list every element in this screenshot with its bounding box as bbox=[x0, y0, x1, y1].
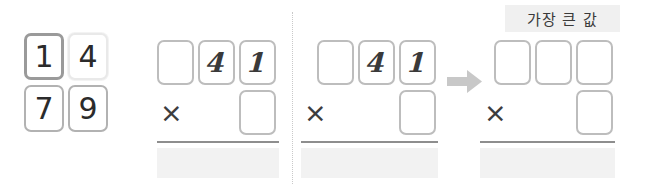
step-two-top-box-1[interactable]: 4 bbox=[358, 40, 395, 85]
step-two-top-box-2[interactable]: 1 bbox=[399, 40, 436, 85]
step-two-multiply-sign: × bbox=[304, 99, 327, 126]
step-one-top-value-2: 1 bbox=[247, 49, 268, 76]
step-one-top-box-0[interactable] bbox=[157, 40, 194, 85]
number-card-7[interactable]: 7 bbox=[24, 85, 64, 132]
largest-value-label: 가장 큰 값 bbox=[505, 5, 620, 32]
step-two-rule bbox=[301, 141, 438, 143]
result-rule bbox=[480, 141, 615, 143]
result-answer-area[interactable] bbox=[480, 148, 615, 178]
number-card-7-value: 7 bbox=[34, 94, 53, 124]
right-arrow-icon bbox=[447, 68, 483, 96]
number-card-1[interactable]: 1 bbox=[24, 33, 64, 80]
number-card-4-value: 4 bbox=[78, 42, 97, 72]
step-one-top-value-1: 4 bbox=[206, 49, 227, 76]
result-top-box-0[interactable] bbox=[494, 40, 531, 85]
result-multiply-sign: × bbox=[484, 99, 507, 126]
result-top-box-2[interactable] bbox=[576, 40, 613, 85]
step-one-multiply-sign: × bbox=[160, 99, 183, 126]
dotted-divider bbox=[292, 12, 293, 184]
number-card-4[interactable]: 4 bbox=[68, 33, 108, 80]
step-two-top-value-2: 1 bbox=[407, 49, 428, 76]
step-one-answer-area[interactable] bbox=[157, 148, 279, 178]
step-one-bottom-box-0[interactable] bbox=[239, 90, 276, 135]
step-one-top-box-2[interactable]: 1 bbox=[239, 40, 276, 85]
step-two-top-value-1: 4 bbox=[366, 49, 387, 76]
worksheet-canvas: 1 4 7 9 4 1 × 4 1 bbox=[0, 0, 645, 192]
step-one-rule bbox=[157, 141, 279, 143]
result-top-box-1[interactable] bbox=[535, 40, 572, 85]
number-card-9[interactable]: 9 bbox=[68, 85, 108, 132]
number-card-1-value: 1 bbox=[34, 42, 53, 72]
right-arrow-glyph bbox=[447, 68, 483, 96]
step-one-top-box-1[interactable]: 4 bbox=[198, 40, 235, 85]
step-two-bottom-box-0[interactable] bbox=[399, 90, 436, 135]
result-bottom-box-0[interactable] bbox=[576, 90, 613, 135]
step-two-top-box-0[interactable] bbox=[317, 40, 354, 85]
number-card-9-value: 9 bbox=[78, 94, 97, 124]
step-two-answer-area[interactable] bbox=[301, 148, 438, 178]
